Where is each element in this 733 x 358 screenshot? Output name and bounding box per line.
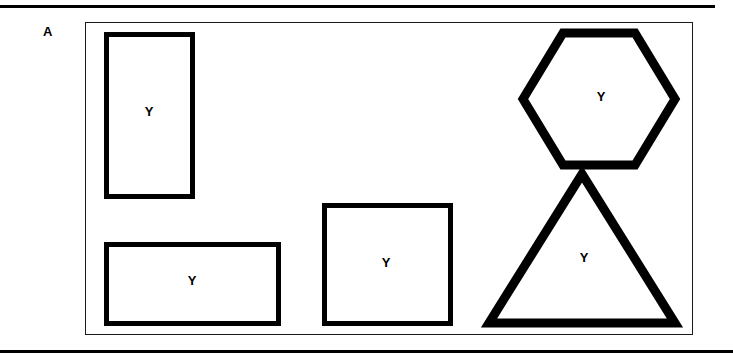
shape-hexagon xyxy=(518,28,680,170)
shape-wide-rectangle xyxy=(104,242,281,326)
shape-triangle xyxy=(482,166,682,330)
shape-square-rectangle xyxy=(322,203,453,326)
figure-panel: A Y Y Y Y Y xyxy=(0,0,733,358)
bottom-horizontal-rule xyxy=(0,350,733,353)
shape-tall-rectangle xyxy=(104,32,195,199)
panel-label-a: A xyxy=(43,25,52,39)
top-horizontal-rule xyxy=(0,5,715,8)
